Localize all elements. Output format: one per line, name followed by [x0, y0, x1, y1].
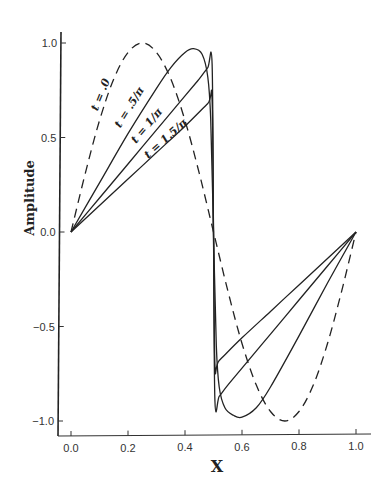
x-tick-label: 0.4 [177, 441, 192, 453]
y-axis [58, 32, 61, 436]
chart: 1.00.50.0−0.5−1.0 0.00.20.40.60.81.0 t =… [0, 0, 392, 496]
x-tick-label: 0.2 [120, 442, 135, 454]
y-tick-label: −0.5 [33, 321, 55, 333]
x-ticks: 0.00.20.40.60.81.0 [63, 429, 363, 454]
x-tick-label: 0.0 [63, 442, 78, 454]
curve-label: t = .0 [88, 76, 113, 112]
x-axis-title: X [211, 457, 224, 476]
y-tick-label: 1.0 [42, 37, 57, 49]
x-axis [58, 434, 371, 436]
y-tick-label: 0.5 [41, 132, 56, 144]
y-tick-label: 0.0 [40, 226, 55, 238]
x-tick-label: 0.6 [234, 441, 249, 453]
x-tick-label: 1.0 [348, 440, 363, 452]
x-tick-label: 0.8 [291, 440, 306, 452]
curves [71, 43, 356, 421]
y-axis-title: Amplitude [22, 160, 37, 237]
y-tick-label: −1.0 [32, 415, 54, 427]
curve-labels: t = .0t = .5/πt = 1/πt = 1.5/π [88, 76, 190, 161]
